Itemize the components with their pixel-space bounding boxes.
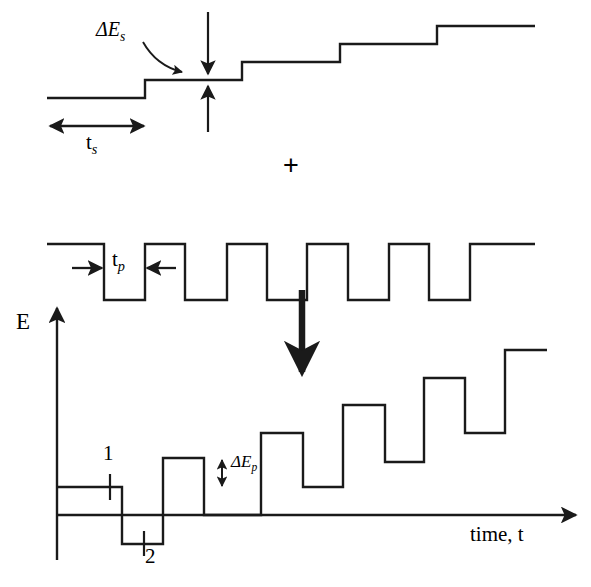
ts-label: ts [86, 132, 97, 156]
delta-ep-subscript: p [251, 461, 257, 474]
tp-label: tp [112, 249, 125, 273]
y-axis-label-E: E [16, 310, 30, 333]
dpv-waveform-figure [0, 0, 591, 587]
sample-label-2: 2 [145, 546, 156, 567]
ts-subscript: s [92, 141, 98, 157]
delta-es-symbol: ΔE [96, 18, 120, 40]
x-axis-label-time: time, t [470, 524, 524, 545]
delta-ep-symbol: ΔE [231, 452, 251, 471]
axis-x-text: time, t [470, 522, 524, 546]
tp-subscript: p [118, 258, 125, 274]
sample-2-text: 2 [145, 544, 156, 568]
delta-ep-label: ΔEp [231, 453, 257, 474]
delta-es-subscript: s [120, 29, 125, 44]
sample-label-1: 1 [103, 443, 114, 464]
delta-es-label: ΔEs [96, 19, 125, 43]
plus-symbol: + [283, 150, 299, 180]
sample-1-text: 1 [103, 441, 114, 465]
delta-es-leader-arrow [143, 42, 182, 72]
plus-symbol-label: + [283, 152, 299, 179]
axis-y-text: E [16, 309, 30, 334]
